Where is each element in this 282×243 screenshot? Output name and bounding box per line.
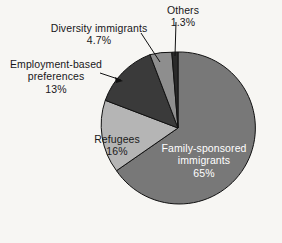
slice-label-refugees-name: Refugees xyxy=(94,133,140,145)
slice-label-refugees: Refugees 16% xyxy=(78,133,156,158)
slice-label-diversity-immigrants-value: 4.7% xyxy=(34,34,164,46)
slice-label-family-sponsored-name-line1: Family-sponsored xyxy=(161,142,246,154)
slice-label-family-sponsored-name-line2: immigrants xyxy=(152,154,256,166)
slice-label-family-sponsored-value: 65% xyxy=(152,167,256,179)
pie-chart: Others 1.3% Diversity immigrants 4.7% Em… xyxy=(0,0,282,243)
slice-label-diversity-immigrants: Diversity immigrants 4.7% xyxy=(34,22,164,47)
slice-label-employment-based-name-line1: Employment-based xyxy=(10,58,102,70)
slice-label-employment-based-name-line2: preferences xyxy=(0,70,114,82)
slice-label-others-name: Others xyxy=(167,4,199,16)
slice-label-diversity-immigrants-name: Diversity immigrants xyxy=(51,22,148,34)
slice-label-family-sponsored: Family-sponsored immigrants 65% xyxy=(152,142,256,179)
slice-label-refugees-value: 16% xyxy=(78,145,156,157)
slice-label-employment-based: Employment-based preferences 13% xyxy=(0,58,114,95)
slice-label-employment-based-value: 13% xyxy=(0,83,114,95)
